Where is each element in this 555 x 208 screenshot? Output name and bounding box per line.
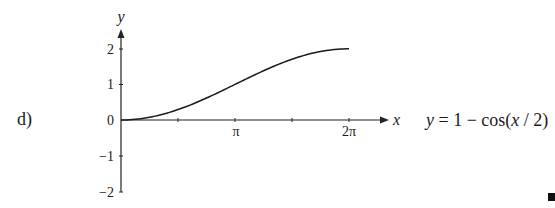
x-tick-label-2pi: 2π xyxy=(342,124,356,139)
x-axis-arrow-icon xyxy=(380,117,389,124)
y-tick-label-m1: −1 xyxy=(99,149,114,164)
y-axis-label: y xyxy=(115,8,125,26)
y-tick-label-0: 0 xyxy=(107,113,114,128)
equation-rest: / 2) xyxy=(519,110,548,130)
y-axis-arrow-icon xyxy=(118,29,125,38)
x-axis-label: x xyxy=(392,111,400,128)
y-tick-label-m2: −2 xyxy=(99,185,114,200)
x-tick-label-pi: π xyxy=(232,124,239,139)
y-tick-label-2: 2 xyxy=(107,42,114,57)
y-tick-label-1: 1 xyxy=(107,77,114,92)
equation-lhs: y xyxy=(426,110,434,130)
function-curve xyxy=(121,49,349,120)
function-equation: y = 1 − cos(x / 2) xyxy=(426,110,548,131)
end-marker-square xyxy=(548,193,555,201)
equation-middle: = 1 − cos( xyxy=(434,110,511,130)
